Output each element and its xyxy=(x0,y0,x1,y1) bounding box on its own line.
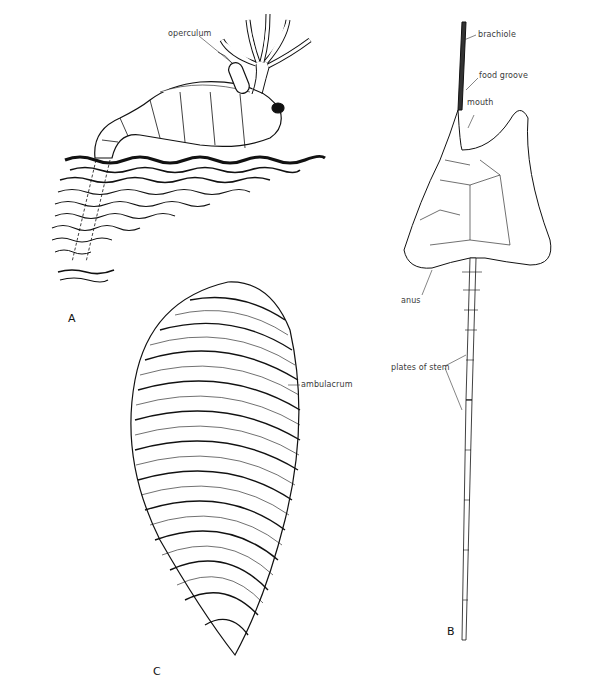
panel-letter-c: C xyxy=(153,665,161,678)
panel-letter-b: B xyxy=(447,625,455,638)
figure-illustrations xyxy=(0,0,603,690)
panel-a-sediment xyxy=(52,156,325,282)
label-plates-of-stem: plates of stem xyxy=(391,363,450,372)
label-mouth: mouth xyxy=(467,98,493,107)
label-anus: anus xyxy=(401,296,421,305)
panel-b-theca xyxy=(404,22,551,640)
panel-letter-a: A xyxy=(68,312,76,325)
label-brachiole: brachiole xyxy=(478,30,516,39)
label-food-groove: food groove xyxy=(479,71,528,80)
panel-c-helicoplacoid xyxy=(131,282,300,655)
figure-caption xyxy=(4,680,599,690)
label-operculum: operculum xyxy=(168,29,211,38)
label-ambulacrum: ambulacrum xyxy=(301,380,353,389)
